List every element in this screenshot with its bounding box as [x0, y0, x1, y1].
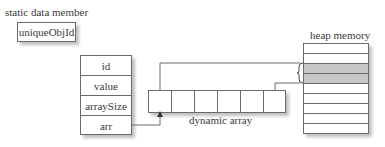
array-end-to-heap-line [275, 83, 300, 90]
arrow-head-icon [157, 111, 163, 117]
brace-icon [297, 63, 303, 83]
array-start-to-heap-line [160, 63, 300, 90]
connector-lines [0, 0, 385, 147]
arr-pointer-line [132, 115, 160, 125]
